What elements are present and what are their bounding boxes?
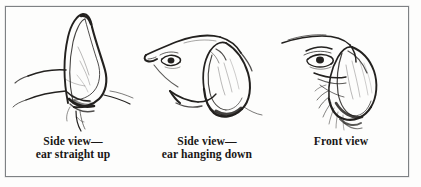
caption-line-2: ear straight up xyxy=(6,148,140,161)
caption-line-1: Side view— xyxy=(140,135,274,148)
panel-caption: Side view— ear hanging down xyxy=(140,135,274,162)
panel-ear-hanging-down: Side view— ear hanging down xyxy=(140,7,274,176)
panel-row: Side view— ear straight up xyxy=(6,7,408,176)
panel-caption: Front view xyxy=(274,135,408,148)
panel-caption: Side view— ear straight up xyxy=(6,135,140,162)
panel-front-view: Front view xyxy=(274,7,408,176)
figure-plate: Side view— ear straight up xyxy=(0,0,421,187)
panel-ear-straight-up: Side view— ear straight up xyxy=(6,7,140,176)
dog-ear-straight-up-drawing xyxy=(6,7,140,135)
caption-line-1: Side view— xyxy=(6,135,140,148)
caption-line-1: Front view xyxy=(274,135,408,148)
dog-head-ear-hanging-down-drawing xyxy=(140,7,274,135)
dog-head-front-view-drawing xyxy=(274,7,408,135)
caption-line-2: ear hanging down xyxy=(140,148,274,161)
